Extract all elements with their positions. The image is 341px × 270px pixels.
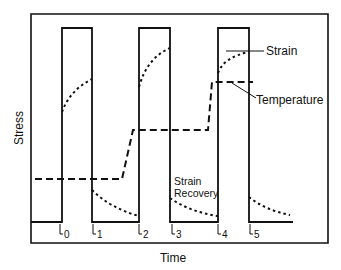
x-axis-label: Time bbox=[160, 251, 187, 265]
creep-recovery-diagram: 0 1 2 3 4 5 Strain Temperature Strain Re… bbox=[0, 0, 341, 270]
temperature-leader bbox=[232, 83, 256, 98]
temperature-line bbox=[35, 82, 253, 179]
tick-0: 0 bbox=[64, 229, 70, 240]
tick-2: 2 bbox=[143, 229, 149, 240]
temperature-label: Temperature bbox=[256, 93, 324, 107]
stress-line bbox=[31, 28, 293, 222]
strain-recovery-label-1: Strain bbox=[174, 175, 202, 187]
strain-label: Strain bbox=[266, 44, 297, 58]
tick-4: 4 bbox=[222, 229, 228, 240]
tick-3: 3 bbox=[176, 229, 182, 240]
tick-5: 5 bbox=[254, 229, 260, 240]
y-axis-label: Stress bbox=[12, 111, 26, 145]
tick-1: 1 bbox=[97, 229, 103, 240]
strain-recovery-label-2: Recovery bbox=[174, 187, 219, 199]
